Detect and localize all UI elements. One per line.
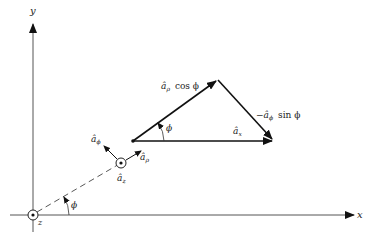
a-z-label: âz [117, 173, 126, 184]
y-axis-label: y [29, 5, 36, 16]
cylindrical-unit-vector-diagram: y x z ϕ âz âϕ âρ [0, 0, 367, 246]
radial-dashed-line [37, 163, 121, 212]
neg-a-phi-sin-phi-label: −âϕsin ϕ [256, 110, 300, 122]
z-axis-origin: z [28, 210, 43, 227]
triangle-phi-label: ϕ [166, 123, 172, 133]
origin-angle-phi: ϕ [64, 197, 77, 215]
origin-phi-label: ϕ [71, 200, 77, 210]
x-axis-label: x [357, 209, 363, 220]
point-a-z: âz [116, 158, 126, 184]
a-phi-label: âϕ [91, 134, 100, 146]
a-rho-cos-phi-label: âρcos ϕ [161, 81, 199, 93]
z-axis-label: z [37, 218, 43, 227]
a-phi-vector: âϕ [91, 134, 117, 159]
vector-triangle: ϕ âρcos ϕ −âϕsin ϕ âx [131, 80, 300, 143]
x-axis: x [10, 209, 363, 220]
a-rho-vector: âρ [126, 151, 149, 164]
y-axis: y [29, 5, 36, 232]
a-rho-label: âρ [140, 152, 149, 164]
a-x-label: âx [233, 126, 242, 137]
